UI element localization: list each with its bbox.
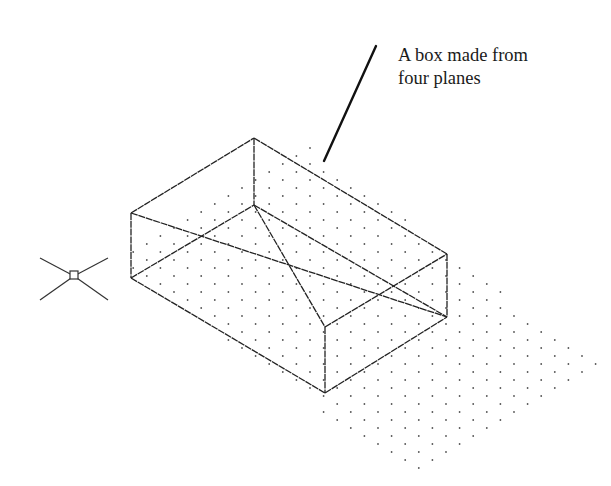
grid-dot [513,411,515,413]
grid-dot [255,323,257,325]
grid-dot [391,355,393,357]
box-edge [131,138,254,213]
grid-dot [377,315,379,317]
grid-dot [377,267,379,269]
grid-dot [241,203,243,205]
grid-dot [554,355,556,357]
grid-dot [391,323,393,325]
grid-dot [445,387,447,389]
grid-dot [200,227,202,229]
grid-dot [472,387,474,389]
grid-dot [200,291,202,293]
grid-dot [540,347,542,349]
grid-dot [336,259,338,261]
grid-dot [377,203,379,205]
grid-dot [228,227,230,229]
grid-dot [173,291,175,293]
grid-dot [500,323,502,325]
ucs-axis [74,258,108,276]
grid-dot [432,395,434,397]
grid-dot [309,259,311,261]
grid-dot [391,307,393,309]
grid-dot [459,331,461,333]
grid-dot [404,443,406,445]
grid-dot [336,419,338,421]
grid-dot [513,363,515,365]
grid-dot [336,291,338,293]
grid-dot [282,243,284,245]
grid-dot [282,371,284,373]
grid-dot [377,235,379,237]
grid-dot [500,291,502,293]
grid-dot [255,211,257,213]
grid-dot [336,227,338,229]
grid-dot [336,195,338,197]
grid-dot [282,227,284,229]
grid-dot [214,235,216,237]
grid-dot [132,267,134,269]
annotation-line-2: four planes [398,67,528,90]
grid-dot [296,347,298,349]
grid-dot [268,171,270,173]
grid-dot [323,171,325,173]
grid-dot [282,355,284,357]
grid-dot [268,363,270,365]
grid-dot [364,419,366,421]
grid-dot [255,339,257,341]
grid-dot [241,315,243,317]
grid-dot [187,299,189,301]
grid-dot [418,419,420,421]
grid-dot [404,347,406,349]
grid-dot [268,315,270,317]
grid-dot [336,323,338,325]
grid-dot [568,347,570,349]
grid-dot [472,435,474,437]
grid-dot [568,363,570,365]
grid-dot [255,195,257,197]
grid-dot [391,339,393,341]
grid-dot [323,251,325,253]
grid-dot [336,403,338,405]
grid-dot [540,331,542,333]
grid-dot [282,211,284,213]
grid-dot [268,299,270,301]
grid-dot [404,251,406,253]
grid-dot [581,371,583,373]
grid-dot [296,363,298,365]
grid-dot [200,211,202,213]
grid-dot [418,339,420,341]
grid-dot [350,187,352,189]
grid-dot [228,291,230,293]
grid-dot [364,195,366,197]
grid-dot [241,251,243,253]
grid-dot [513,331,515,333]
grid-dot [540,395,542,397]
grid-dot [350,299,352,301]
grid-dot [296,155,298,157]
grid-dot [432,299,434,301]
grid-dot [350,235,352,237]
grid-dot [432,411,434,413]
annotation-label: A box made from four planes [398,44,528,90]
grid-dot [255,291,257,293]
grid-dot [309,195,311,197]
grid-dot [432,459,434,461]
grid-dot [309,307,311,309]
grid-dot [404,315,406,317]
grid-dot [391,243,393,245]
grid-dot [309,371,311,373]
grid-dot [228,211,230,213]
grid-dot [160,235,162,237]
grid-dot [377,443,379,445]
grid-dot [404,283,406,285]
grid-dot [445,371,447,373]
grid-dot [350,363,352,365]
grid-dot [146,275,148,277]
box-edge [131,213,447,317]
grid-dot [432,315,434,317]
grid-dot [527,403,529,405]
grid-dot [323,315,325,317]
grid-dot [418,387,420,389]
grid-dot [187,219,189,221]
grid-dot [228,323,230,325]
